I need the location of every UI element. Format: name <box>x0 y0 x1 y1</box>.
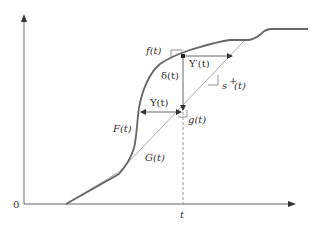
x-axis-arrow-icon <box>288 201 296 207</box>
s-plus-label: s <box>222 80 227 91</box>
y-axis-arrow-icon <box>21 14 27 22</box>
f-slope-label: f(t) <box>145 45 162 56</box>
upsilon-label: Υ(t) <box>149 97 169 108</box>
G-curve-label: G(t) <box>145 152 165 163</box>
g-slope-label: g(t) <box>188 114 206 125</box>
delta-top-marker <box>181 54 185 58</box>
origin-label: 0 <box>13 199 19 210</box>
delta-label: δ(t) <box>161 70 179 81</box>
diagram-canvas: 0 t f(t) δ(t) Υ′(t) s + (t) Υ(t) g(t) F(… <box>0 0 322 225</box>
x-tick-label-t: t <box>180 209 185 220</box>
upsilon-prime-label: Υ′(t) <box>188 58 210 69</box>
curve-G <box>66 40 245 204</box>
s-plus-arg: (t) <box>234 80 246 91</box>
F-curve-label: F(t) <box>112 123 132 134</box>
